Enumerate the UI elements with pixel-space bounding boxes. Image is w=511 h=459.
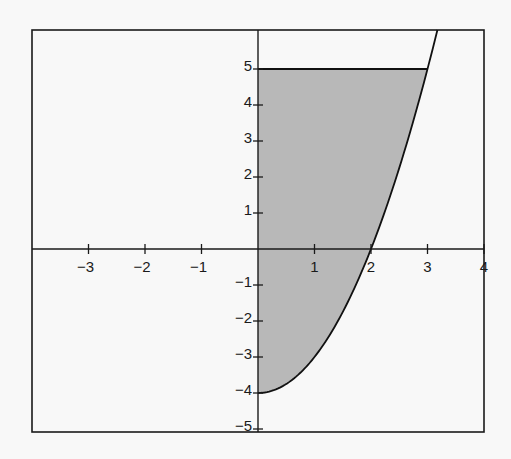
x-tick-label: −1 [190, 258, 207, 275]
chart: −3−2−11234 54321−1−2−3−4−5 [0, 0, 511, 459]
y-tick-label: −4 [235, 381, 252, 398]
x-tick-label: −3 [77, 258, 94, 275]
y-tick-label: 1 [244, 201, 252, 218]
y-tick-label: −5 [235, 417, 252, 434]
x-tick-label: 2 [367, 258, 375, 275]
y-tick-label: −2 [235, 309, 252, 326]
x-tick-label: 3 [423, 258, 431, 275]
y-tick-label: 5 [244, 57, 252, 74]
y-tick-label: −3 [235, 345, 252, 362]
y-tick-label: 2 [244, 165, 252, 182]
y-tick-label: 3 [244, 129, 252, 146]
y-tick-label: 4 [244, 93, 252, 110]
x-tick-label: −2 [133, 258, 150, 275]
x-tick-label: 1 [310, 258, 318, 275]
y-tick-label: −1 [235, 273, 252, 290]
x-tick-label: 4 [480, 258, 488, 275]
